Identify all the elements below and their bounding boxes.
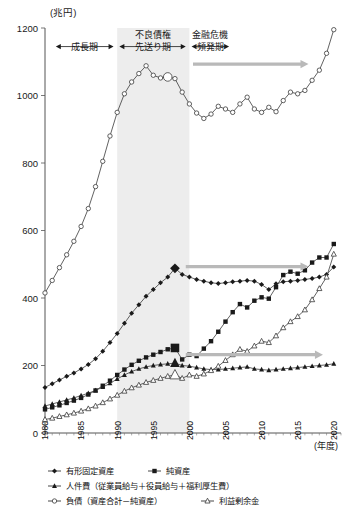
- y-axis-unit-label: (兆円): [50, 7, 76, 18]
- data-point-marker: [52, 499, 56, 503]
- data-point-marker: [295, 272, 299, 276]
- data-point-marker: [202, 116, 206, 120]
- data-point-marker: [64, 253, 68, 257]
- x-axis-tick-label: 2020: [329, 421, 339, 440]
- x-axis-tick-label: 1995: [149, 421, 159, 440]
- data-point-marker: [194, 277, 199, 282]
- annotation-label-line2: 頻発期: [197, 41, 224, 52]
- legend-item-label: 有形固定資産: [66, 466, 114, 476]
- legend-item-3: 負債（資産合計－純資産）: [48, 496, 162, 506]
- data-point-marker: [317, 275, 322, 280]
- legend-item-label: 利益剰余金: [219, 496, 260, 506]
- y-axis-tick-label: 800: [22, 158, 38, 169]
- data-point-marker: [201, 279, 206, 284]
- data-point-marker: [129, 363, 133, 367]
- arrow-head-right-icon: [224, 44, 229, 49]
- data-point-marker: [163, 73, 172, 82]
- data-point-marker: [310, 276, 315, 281]
- x-axis-tick-label: 1990: [113, 421, 123, 440]
- data-point-marker: [324, 51, 328, 55]
- data-point-marker: [237, 279, 242, 284]
- annotation-arrow-liabilities: [193, 60, 309, 68]
- data-point-marker: [151, 353, 155, 357]
- data-point-marker: [252, 279, 257, 284]
- legend-item-1: 純資産: [148, 466, 190, 476]
- legend: 有形固定資産純資産人件費（従業員給与＋役員給与＋福利厚生費）負債（資産合計－純資…: [48, 466, 260, 506]
- data-point-marker: [317, 255, 321, 259]
- annotation-crisis: 金融危機頻発期: [192, 29, 230, 52]
- legend-item-label: 人件費（従業員給与＋役員給与＋福利厚生費）: [66, 481, 234, 491]
- annotation-label-line1: 金融危機: [192, 29, 228, 40]
- data-point-marker: [223, 319, 227, 323]
- chart-container: (兆円)020040060080010001200198019851990199…: [0, 0, 349, 516]
- data-point-marker: [317, 68, 321, 72]
- data-point-marker: [180, 90, 184, 94]
- data-point-marker: [93, 403, 98, 408]
- annotation-growth: 成長期: [56, 41, 114, 52]
- data-point-marker: [310, 260, 314, 264]
- data-point-marker: [288, 90, 292, 94]
- data-point-marker: [72, 239, 76, 243]
- data-point-marker: [137, 71, 141, 75]
- data-point-marker: [267, 105, 271, 109]
- data-point-marker: [100, 400, 105, 405]
- data-point-marker: [223, 280, 228, 285]
- data-point-marker: [209, 280, 214, 285]
- x-axis-tick-label: 1985: [76, 421, 86, 440]
- data-point-marker: [231, 110, 235, 114]
- y-axis-tick-label: 400: [22, 293, 38, 304]
- data-point-marker: [331, 361, 336, 366]
- arrow-head-left-icon: [192, 44, 197, 49]
- data-point-marker: [238, 102, 242, 106]
- arrow-head-right-icon: [109, 44, 114, 49]
- data-point-marker: [281, 325, 286, 330]
- data-point-marker: [245, 278, 250, 283]
- data-point-marker: [151, 73, 155, 77]
- data-point-marker: [302, 277, 307, 282]
- data-point-marker: [108, 134, 112, 138]
- data-point-marker: [295, 92, 299, 96]
- annotation-label: 成長期: [71, 41, 98, 52]
- data-point-marker: [216, 363, 221, 368]
- data-point-marker: [216, 330, 220, 334]
- legend-item-4: 利益剰余金: [201, 496, 260, 506]
- data-point-marker: [303, 88, 307, 92]
- data-point-marker: [245, 305, 249, 309]
- data-point-marker: [122, 367, 126, 371]
- data-point-marker: [79, 224, 83, 228]
- x-axis-tick-label: 2000: [185, 421, 195, 440]
- data-point-marker: [310, 78, 314, 82]
- y-axis-tick-label: 0: [33, 428, 38, 439]
- line-chart: (兆円)020040060080010001200198019851990199…: [0, 0, 349, 516]
- data-point-marker: [137, 359, 141, 363]
- data-point-marker: [158, 350, 162, 354]
- data-point-marker: [288, 279, 293, 284]
- data-point-marker: [245, 364, 250, 369]
- data-point-marker: [64, 374, 69, 379]
- data-point-marker: [223, 358, 228, 363]
- x-axis-tick-label: 2015: [293, 421, 303, 440]
- data-point-marker: [71, 370, 76, 375]
- data-point-marker: [86, 206, 90, 210]
- data-point-marker: [216, 104, 220, 108]
- data-point-marker: [252, 343, 257, 348]
- data-point-marker: [107, 396, 112, 401]
- data-point-marker: [324, 255, 328, 259]
- data-point-marker: [295, 278, 300, 283]
- data-point-marker: [187, 102, 191, 106]
- data-point-marker: [252, 107, 256, 111]
- data-point-marker: [230, 279, 235, 284]
- data-point-marker: [332, 27, 336, 31]
- data-point-marker: [223, 107, 227, 111]
- data-point-marker: [122, 92, 126, 96]
- data-point-marker: [237, 347, 242, 352]
- data-point-marker: [50, 278, 54, 282]
- data-point-marker: [238, 302, 242, 306]
- y-axis-tick-label: 200: [22, 360, 38, 371]
- data-point-marker: [245, 95, 249, 99]
- data-point-marker: [208, 368, 213, 373]
- legend-item-label: 純資産: [166, 466, 190, 476]
- data-point-marker: [180, 357, 184, 361]
- data-point-marker: [274, 110, 278, 114]
- data-point-marker: [332, 242, 336, 246]
